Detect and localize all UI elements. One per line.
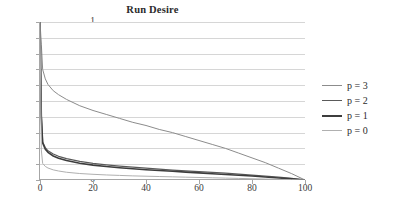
chart-legend: p = 3p = 2p = 1p = 0 [322,78,402,138]
legend-swatch-icon [322,115,342,117]
x-axis-tick-label: 100 [285,184,325,194]
series-line-p0 [40,22,305,180]
legend-label: p = 2 [347,96,368,106]
plot-area [40,22,305,180]
x-axis-tick-label: 60 [179,184,219,194]
legend-label: p = 3 [347,81,368,91]
legend-label: p = 1 [347,111,368,121]
legend-swatch-icon [322,85,342,86]
series-line-p1 [40,22,305,180]
x-axis-tick-label: 40 [126,184,166,194]
legend-item[interactable]: p = 1 [322,108,402,123]
series-line-p3 [40,22,305,180]
x-axis-tick-label: 20 [73,184,113,194]
legend-label: p = 0 [347,126,368,136]
series-line-p2 [40,22,305,180]
legend-item[interactable]: p = 0 [322,123,402,138]
legend-item[interactable]: p = 2 [322,93,402,108]
x-axis-tick-label: 0 [20,184,60,194]
x-axis-tick-label: 80 [232,184,272,194]
legend-swatch-icon [322,100,342,101]
series-curves [40,22,305,180]
chart-title: Run Desire [0,4,305,15]
legend-swatch-icon [322,130,342,131]
chart-container: Run Desire 00.10.20.30.40.50.60.70.80.91… [0,0,408,219]
legend-item[interactable]: p = 3 [322,78,402,93]
